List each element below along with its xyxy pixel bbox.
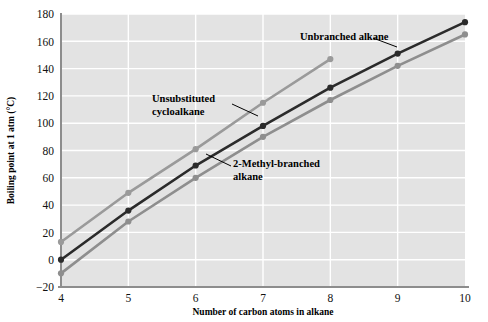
data-point — [260, 134, 266, 140]
data-point — [260, 123, 266, 129]
y-tick-label: 100 — [37, 117, 55, 129]
data-point — [327, 85, 333, 91]
data-point — [395, 50, 401, 56]
data-point — [462, 19, 468, 25]
data-point — [462, 31, 468, 37]
data-point — [193, 146, 199, 152]
data-point — [193, 162, 199, 168]
y-tick-label: 0 — [48, 254, 54, 266]
data-point — [327, 97, 333, 103]
data-point — [193, 175, 199, 181]
data-point — [125, 190, 131, 196]
data-point — [125, 218, 131, 224]
data-point — [58, 270, 64, 276]
data-point — [58, 257, 64, 263]
x-tick-label: 8 — [327, 292, 333, 304]
y-axis-title: Boiling point at 1 atm (°C) — [6, 97, 17, 205]
chart-figure: −2002040608010012014016018045678910Unbra… — [0, 0, 488, 322]
y-tick-label: 40 — [43, 199, 55, 211]
x-tick-label: 10 — [459, 292, 471, 304]
y-tick-label: 160 — [37, 36, 55, 48]
y-tick-label: 140 — [37, 63, 55, 75]
data-point — [58, 239, 64, 245]
x-tick-label: 7 — [260, 292, 266, 304]
y-tick-label: 120 — [37, 90, 55, 102]
y-tick-label: −20 — [36, 281, 54, 293]
annotation-line: Unsubstituted — [152, 93, 215, 104]
data-point — [327, 56, 333, 62]
x-tick-label: 9 — [395, 292, 401, 304]
y-tick-label: 60 — [43, 172, 55, 184]
boiling-point-line-chart: −2002040608010012014016018045678910Unbra… — [0, 0, 488, 322]
x-axis-title: Number of carbon atoms in alkane — [192, 307, 333, 317]
data-point — [260, 100, 266, 106]
annotation-line: cycloalkane — [152, 106, 205, 117]
x-tick-label: 5 — [125, 292, 131, 304]
data-point — [395, 63, 401, 69]
data-point — [125, 207, 131, 213]
annotation-line: alkane — [233, 171, 263, 182]
x-tick-label: 6 — [193, 292, 199, 304]
x-tick-label: 4 — [58, 292, 64, 304]
x-tick-labels: 45678910 — [58, 292, 471, 304]
y-tick-label: 180 — [37, 8, 55, 20]
series-annotation: Unbranched alkane — [300, 31, 389, 42]
y-tick-label: 80 — [43, 145, 55, 157]
y-tick-label: 20 — [43, 227, 55, 239]
annotation-line: Unbranched alkane — [300, 31, 389, 42]
annotation-line: 2-Methyl-branched — [233, 158, 320, 169]
y-tick-labels: −20020406080100120140160180 — [36, 8, 54, 293]
